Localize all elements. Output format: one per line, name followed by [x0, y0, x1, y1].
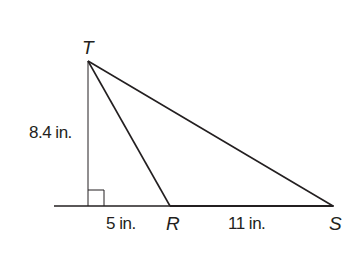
point-label-S: S [329, 213, 342, 235]
point-label-R: R [166, 213, 180, 235]
segment-TR [88, 61, 170, 206]
foot-to-R-label: 5 in. [106, 214, 136, 234]
R-to-S-label: 11 in. [228, 214, 265, 234]
point-label-T: T [82, 37, 94, 59]
right-angle-marker [88, 190, 104, 206]
height-label: 8.4 in. [29, 123, 72, 143]
segment-TS [88, 61, 333, 206]
